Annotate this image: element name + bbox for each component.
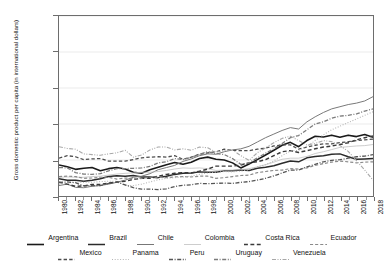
legend-item-venezuela[interactable]: Venezuela — [272, 249, 326, 256]
x-tick-mark — [91, 197, 92, 201]
x-tick-label: 1996 — [194, 200, 201, 214]
x-tick-mark — [299, 197, 300, 200]
x-tick-mark — [332, 197, 333, 200]
legend-swatch — [310, 234, 327, 241]
legend-label: Argentina — [48, 234, 78, 241]
series-lines — [59, 16, 373, 196]
legend-swatch — [27, 234, 44, 241]
legend-swatch — [112, 249, 129, 256]
x-tick-mark — [100, 197, 101, 200]
x-tick-label: 2014 — [343, 200, 350, 214]
x-tick-label: 2004 — [260, 200, 267, 214]
legend-swatch — [88, 234, 105, 241]
legend-label: Venezuela — [293, 249, 326, 256]
legend-swatch — [244, 234, 261, 241]
x-tick-label: 1998 — [210, 200, 217, 214]
x-tick-label: 1982 — [77, 200, 84, 214]
x-tick-mark — [66, 197, 67, 200]
x-tick-label: 2012 — [327, 200, 334, 214]
x-tick-mark — [125, 197, 126, 201]
chart-legend: ArgentinaBrazilChileColombiaCosta RicaEc… — [0, 230, 384, 260]
legend-item-brazil[interactable]: Brazil — [88, 234, 127, 241]
legend-item-chile[interactable]: Chile — [137, 234, 174, 241]
x-tick-mark — [357, 197, 358, 201]
x-tick-label: 1992 — [160, 200, 167, 214]
legend-swatch — [272, 249, 289, 256]
legend-label: Costa Rica — [265, 234, 299, 241]
x-tick-mark — [149, 197, 150, 200]
legend-item-panama[interactable]: Panama — [112, 249, 159, 256]
x-tick-mark — [174, 197, 175, 201]
x-tick-label: 1984 — [94, 200, 101, 214]
legend-label: Colombia — [205, 234, 235, 241]
legend-item-mexico[interactable]: Mexico — [58, 249, 101, 256]
x-tick-mark — [291, 197, 292, 201]
series-line-uruguay — [59, 109, 373, 175]
plot-area — [58, 15, 374, 197]
x-tick-mark — [366, 197, 367, 200]
legend-swatch — [137, 234, 154, 241]
chart-figure: Gross domestic product per capita (in in… — [0, 0, 384, 265]
x-tick-mark — [58, 197, 59, 201]
x-tick-mark — [158, 197, 159, 201]
x-tick-mark — [224, 197, 225, 201]
legend-item-costa-rica[interactable]: Costa Rica — [244, 234, 299, 241]
x-tick-mark — [183, 197, 184, 200]
series-line-chile — [59, 97, 373, 188]
x-tick-mark — [199, 197, 200, 200]
x-tick-mark — [349, 197, 350, 200]
legend-swatch — [169, 249, 186, 256]
x-tick-mark — [341, 197, 342, 201]
x-tick-label: 1994 — [177, 200, 184, 214]
x-tick-mark — [274, 197, 275, 201]
x-tick-mark — [241, 197, 242, 201]
legend-label: Brazil — [109, 234, 127, 241]
legend-label: Mexico — [79, 249, 101, 256]
x-tick-mark — [108, 197, 109, 201]
legend-swatch — [214, 249, 231, 256]
legend-label: Uruguay — [235, 249, 261, 256]
x-tick-mark — [374, 197, 375, 201]
x-tick-mark — [83, 197, 84, 200]
x-tick-mark — [133, 197, 134, 200]
x-tick-label: 2002 — [244, 200, 251, 214]
series-line-panama — [59, 112, 373, 186]
legend-item-uruguay[interactable]: Uruguay — [214, 249, 261, 256]
x-tick-mark — [216, 197, 217, 200]
x-tick-mark — [191, 197, 192, 201]
x-tick-mark — [307, 197, 308, 201]
x-tick-mark — [258, 197, 259, 201]
x-tick-label: 2000 — [227, 200, 234, 214]
legend-label: Ecuador — [331, 234, 357, 241]
legend-label: Peru — [190, 249, 205, 256]
legend-row-1: ArgentinaBrazilChileColombiaCosta RicaEc… — [0, 230, 384, 245]
x-tick-mark — [249, 197, 250, 200]
x-tick-mark — [324, 197, 325, 201]
legend-item-ecuador[interactable]: Ecuador — [310, 234, 357, 241]
legend-swatch — [184, 234, 201, 241]
x-tick-label: 2010 — [310, 200, 317, 214]
x-tick-label: 2008 — [293, 200, 300, 214]
x-tick-mark — [208, 197, 209, 201]
x-tick-mark — [75, 197, 76, 201]
legend-item-peru[interactable]: Peru — [169, 249, 205, 256]
x-tick-mark — [283, 197, 284, 200]
x-tick-label: 1986 — [110, 200, 117, 214]
x-tick-mark — [266, 197, 267, 200]
legend-swatch — [58, 249, 75, 256]
x-tick-label: 1980 — [61, 200, 68, 214]
series-line-venezuela — [59, 136, 373, 180]
legend-item-argentina[interactable]: Argentina — [27, 234, 78, 241]
legend-item-colombia[interactable]: Colombia — [184, 234, 235, 241]
series-line-mexico — [59, 139, 373, 161]
x-tick-mark — [166, 197, 167, 200]
x-tick-label: 1988 — [127, 200, 134, 214]
x-tick-mark — [233, 197, 234, 200]
legend-label: Panama — [133, 249, 159, 256]
x-tick-mark — [316, 197, 317, 200]
x-tick-label: 1990 — [144, 200, 151, 214]
legend-label: Chile — [158, 234, 174, 241]
x-tick-label: 2018 — [377, 200, 384, 214]
y-axis-title: Gross domestic product per capita (in in… — [12, 0, 20, 200]
x-tick-label: 2006 — [277, 200, 284, 214]
